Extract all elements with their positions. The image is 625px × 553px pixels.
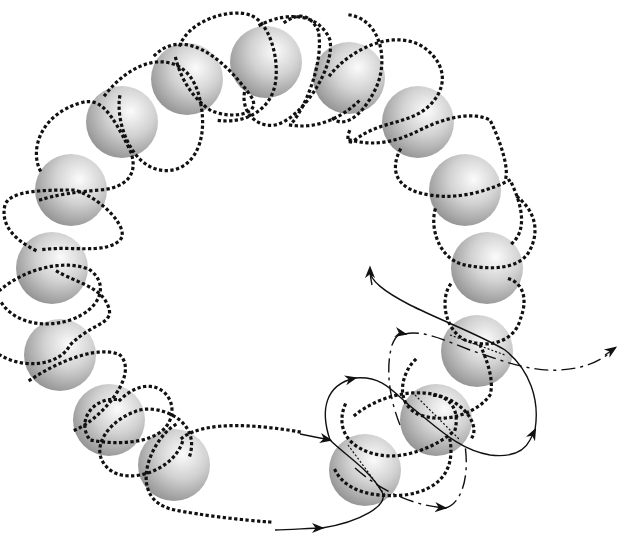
dashdot-lower-hook bbox=[445, 445, 466, 508]
incoming-lower-trajectory bbox=[275, 528, 322, 530]
sphere bbox=[230, 26, 302, 98]
exit-right-arrow bbox=[605, 348, 615, 355]
dotted-loop bbox=[182, 426, 300, 438]
sphere bbox=[313, 42, 385, 114]
sphere bbox=[151, 43, 223, 115]
incoming-upper-trajectory bbox=[300, 434, 330, 440]
sphere bbox=[73, 384, 145, 456]
loop-up-trajectory bbox=[325, 378, 355, 440]
sphere bbox=[86, 86, 158, 158]
sphere bbox=[441, 315, 513, 387]
sphere bbox=[16, 232, 88, 304]
loop-right-arrow bbox=[530, 430, 535, 440]
sphere-ring-diagram bbox=[0, 0, 625, 553]
